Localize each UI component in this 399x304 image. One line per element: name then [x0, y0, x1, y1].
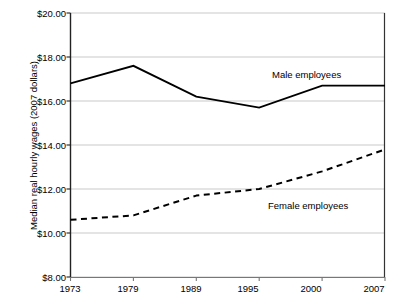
wage-line-chart: Median real hourly wages (2007 dollars) …: [0, 0, 399, 304]
plot-area: [0, 0, 399, 304]
axis-ticks: [67, 13, 386, 281]
gridlines: [71, 13, 386, 277]
series-line-female: [71, 149, 386, 219]
